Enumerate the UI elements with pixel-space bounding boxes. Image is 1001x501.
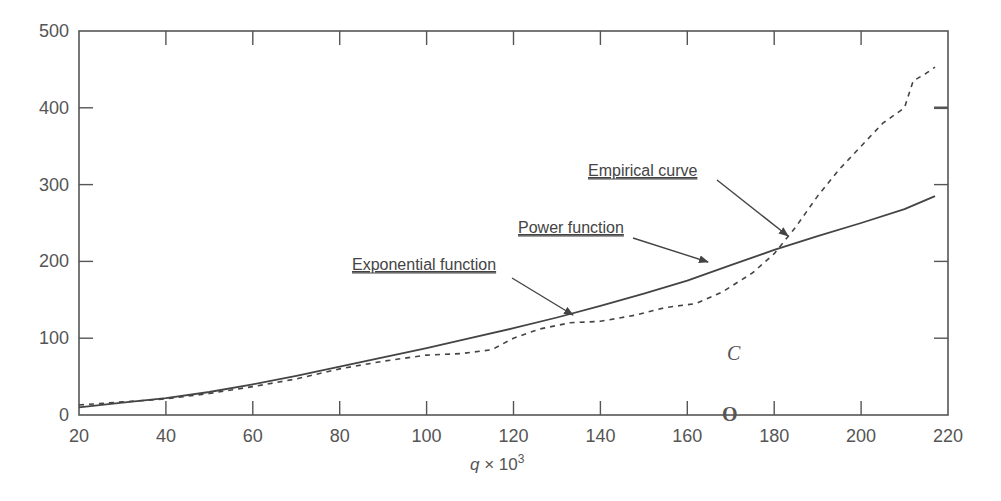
plot-frame xyxy=(79,31,948,415)
annotations: Exponential functionPower functionEmpiri… xyxy=(352,162,788,315)
x-tick-label: 20 xyxy=(69,426,89,446)
chart: 20406080100120140160180200220 0100200300… xyxy=(0,0,1001,501)
series-layer xyxy=(79,67,935,407)
x-tick-label: 220 xyxy=(933,426,963,446)
x-tick-label: 180 xyxy=(759,426,789,446)
annotation-arrow xyxy=(717,180,788,236)
x-axis-label-times: × 10 xyxy=(479,455,517,474)
plot-area xyxy=(79,31,948,415)
y-tick-label: 100 xyxy=(39,328,69,348)
x-tick-label: 160 xyxy=(672,426,702,446)
y-axis-ticks: 0100200300400500 xyxy=(39,21,948,425)
fitted-function-line xyxy=(79,196,935,407)
annotation-exponential-function: Exponential function xyxy=(352,256,496,273)
x-tick-label: 60 xyxy=(243,426,263,446)
mark-o: O xyxy=(722,403,738,425)
x-tick-label: 80 xyxy=(330,426,350,446)
annotation-empirical-curve: Empirical curve xyxy=(588,162,697,179)
y-tick-label: 0 xyxy=(59,405,69,425)
y-tick-label: 500 xyxy=(39,21,69,41)
y-tick-label: 400 xyxy=(39,98,69,118)
x-tick-label: 40 xyxy=(156,426,176,446)
x-tick-label: 120 xyxy=(498,426,528,446)
annotation-power-function: Power function xyxy=(518,219,624,236)
marks: CO xyxy=(722,342,741,425)
mark-c: C xyxy=(727,342,741,364)
annotation-arrow xyxy=(512,278,573,315)
y-tick-label: 300 xyxy=(39,175,69,195)
empirical-curve-line xyxy=(79,67,935,405)
x-tick-label: 140 xyxy=(585,426,615,446)
annotation-arrow xyxy=(633,238,708,262)
x-tick-label: 200 xyxy=(846,426,876,446)
x-axis-label: q × 103 xyxy=(470,452,525,474)
y-tick-label: 200 xyxy=(39,251,69,271)
x-axis-ticks: 20406080100120140160180200220 xyxy=(69,31,963,446)
x-axis-label-exponent: 3 xyxy=(518,452,525,466)
x-tick-label: 100 xyxy=(412,426,442,446)
